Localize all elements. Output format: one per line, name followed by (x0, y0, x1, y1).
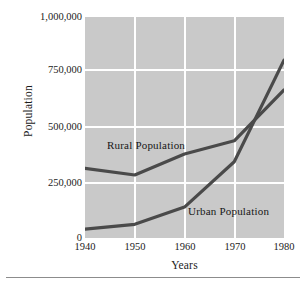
x-tick-label: 1960 (162, 241, 208, 253)
rural-population-label: Rural Population (107, 139, 185, 151)
x-tick-label: 1940 (62, 241, 108, 253)
x-axis-title: Years (85, 259, 284, 271)
x-axis-tick-labels: 1940 1950 1960 1970 1980 (85, 241, 284, 257)
x-tick-label: 1970 (212, 241, 258, 253)
y-tick-label: 750,000 (18, 65, 82, 76)
urban-population-label: Urban Population (188, 205, 269, 217)
x-tick-label: 1950 (112, 241, 158, 253)
bottom-divider (6, 277, 300, 278)
y-tick-label: 1,000,000 (18, 12, 82, 23)
y-tick-label: 250,000 (18, 178, 82, 189)
plot-area: Rural Population Urban Population (85, 17, 284, 238)
population-line-chart: Population 1,000,000 750,000 500,000 250… (0, 0, 306, 286)
y-tick-label: 500,000 (18, 122, 82, 133)
x-tick-label: 1980 (261, 241, 306, 253)
